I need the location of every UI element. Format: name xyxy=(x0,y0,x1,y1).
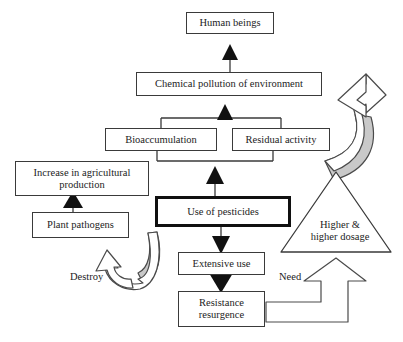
bent-block-arrow-need xyxy=(266,258,366,322)
node-extensive-use-label: Extensive use xyxy=(189,258,253,270)
node-human-beings: Human beings xyxy=(186,12,274,34)
node-plant-pathogens-label: Plant pathogens xyxy=(44,219,117,231)
node-plant-pathogens: Plant pathogens xyxy=(32,212,129,238)
edge-pesticides-to-bioaccum-residual xyxy=(157,151,273,196)
node-increase-in-agricultural-production-label: Increase in agricultural production xyxy=(31,167,134,191)
node-use-of-pesticides-label: Use of pesticides xyxy=(184,206,262,218)
pesticide-cycle-diagram: Human beings Chemical pollution of envir… xyxy=(0,0,403,342)
swoosh-arrow-right xyxy=(325,74,386,180)
node-bioaccumulation: Bioaccumulation xyxy=(105,128,217,151)
edge-label-need: Need xyxy=(279,271,301,282)
node-residual-activity-label: Residual activity xyxy=(243,134,320,146)
node-use-of-pesticides: Use of pesticides xyxy=(155,196,291,227)
node-resistance-resurgence: Resistance resurgence xyxy=(178,291,265,327)
edge-extensive-to-resistance xyxy=(209,273,233,293)
node-bioaccumulation-label: Bioaccumulation xyxy=(122,134,200,146)
edge-label-destroy: Destroy xyxy=(70,271,103,282)
node-extensive-use: Extensive use xyxy=(178,252,265,275)
node-chemical-pollution: Chemical pollution of environment xyxy=(136,72,322,96)
node-higher-dosage-label: Higher & higher dosage xyxy=(300,219,380,243)
node-human-beings-label: Human beings xyxy=(197,17,264,29)
edge-chemical-to-human xyxy=(222,44,238,72)
node-increase-in-agricultural-production: Increase in agricultural production xyxy=(15,161,149,196)
node-resistance-resurgence-label: Resistance resurgence xyxy=(196,297,247,321)
node-residual-activity: Residual activity xyxy=(232,128,330,151)
edge-pesticides-to-extensive xyxy=(212,227,230,254)
node-chemical-pollution-label: Chemical pollution of environment xyxy=(152,78,306,90)
swoosh-arrow-left xyxy=(96,232,160,290)
edge-bioaccumulation-to-chemical xyxy=(161,104,281,128)
